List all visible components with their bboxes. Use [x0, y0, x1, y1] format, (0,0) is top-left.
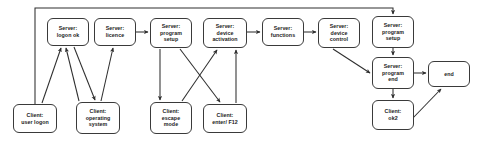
edge-logon-ok-to-operating-system [74, 47, 95, 100]
edge-ok2-to-end [412, 89, 441, 119]
edge-program-setup-to-enter-f12 [180, 49, 220, 102]
node-label: Server: functions [271, 25, 295, 39]
edge-operating-system-to-licence [101, 48, 113, 101]
node-server-program-setup-1[interactable]: Server: program setup [150, 18, 192, 48]
node-label: Server: device control [330, 23, 349, 44]
node-server-functions[interactable]: Server: functions [262, 18, 304, 46]
node-label: Server: licence [106, 25, 125, 39]
node-server-program-end[interactable]: Server: program end [372, 57, 414, 89]
node-label: Server: program end [382, 63, 404, 84]
node-server-licence[interactable]: Server: licence [94, 18, 136, 46]
edge-escape-mode-to-device-activation [182, 50, 217, 101]
edge-operating-system-to-logon-ok [66, 48, 79, 101]
node-client-user-logon[interactable]: Client: user logon [13, 104, 57, 133]
node-label: end [444, 71, 454, 78]
node-label: Server: device activation [212, 23, 237, 44]
node-client-escape-mode[interactable]: Client: escape mode [150, 102, 192, 134]
node-label: Client: enter/ F12 [212, 112, 238, 126]
flowchart-canvas: Server: logon ok Server: licence Server:… [0, 0, 483, 142]
node-label: Server: program setup [382, 22, 404, 43]
node-client-operating-system[interactable]: Client: operating system [76, 102, 120, 134]
node-client-ok2[interactable]: Client: ok2 [372, 100, 414, 130]
node-server-program-setup-2[interactable]: Server: program setup [372, 16, 414, 48]
edge-user-logon-to-logon-ok [42, 48, 61, 103]
node-end[interactable]: end [428, 61, 470, 87]
node-server-logon-ok[interactable]: Server: logon ok [47, 18, 89, 46]
node-label: Client: user logon [21, 112, 49, 126]
node-label: Client: ok2 [385, 108, 402, 122]
node-label: Client: escape mode [162, 108, 180, 129]
node-server-device-control[interactable]: Server: device control [318, 18, 360, 48]
edge-device-control-to-program-end [333, 49, 370, 73]
node-label: Server: logon ok [57, 25, 79, 39]
node-label: Client: operating system [86, 108, 111, 129]
node-label: Server: program setup [160, 23, 182, 44]
node-server-device-activation[interactable]: Server: device activation [203, 18, 247, 48]
node-client-enter-f12[interactable]: Client: enter/ F12 [203, 104, 247, 133]
